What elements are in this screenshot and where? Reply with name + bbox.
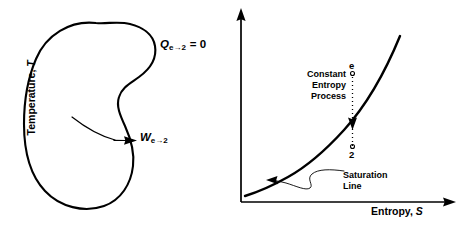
- cep-line-3: Process: [296, 91, 346, 102]
- heat-transfer-label: Qe→2= 0: [160, 38, 206, 53]
- y-axis-arrowhead: [236, 8, 245, 21]
- y-axis-label: Temperature, T: [26, 38, 38, 158]
- saturation-line-label: Saturation Line: [343, 170, 388, 192]
- x-axis-label-text: Entropy,: [371, 205, 413, 217]
- state-point-2-label: 2: [349, 150, 354, 161]
- work-symbol: W: [140, 131, 151, 143]
- work-subscript: e→2: [151, 136, 168, 145]
- work-transfer-label: We→2: [140, 131, 168, 146]
- sat-line-1: Saturation: [343, 170, 388, 181]
- heat-subscript: e→2: [169, 43, 186, 52]
- figure-root: Qe→2= 0 We→2 Temperature, T Entropy, S C…: [0, 0, 469, 235]
- figure-canvas: [0, 0, 469, 235]
- x-axis-label: Entropy, S: [371, 206, 423, 218]
- saturation-line-leader-arrowhead: [266, 176, 278, 184]
- work-arrow-shaft: [72, 117, 115, 140]
- x-axis-arrowhead: [443, 197, 456, 206]
- cep-line-1: Constant: [296, 69, 346, 80]
- state-point-e-marker: [351, 72, 355, 76]
- y-axis-label-symbol: T: [25, 60, 37, 66]
- control-volume-outline: [24, 23, 155, 209]
- constant-entropy-process-label: Constant Entropy Process: [296, 69, 346, 102]
- cep-line-2: Entropy: [296, 80, 346, 91]
- y-axis-label-text: Temperature,: [25, 70, 37, 136]
- x-axis-label-symbol: S: [416, 205, 423, 217]
- state-point-e-label: e: [349, 61, 354, 72]
- heat-symbol: Q: [160, 38, 169, 50]
- sat-line-2: Line: [343, 181, 388, 192]
- heat-equals: = 0: [186, 38, 206, 50]
